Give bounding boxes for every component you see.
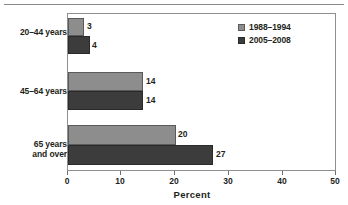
bar-20-44-years-1988-1994 xyxy=(68,18,84,36)
legend-label-2005-2008: 2005–2008 xyxy=(249,35,291,45)
category-label-20-44-years: 20–44 years xyxy=(0,27,67,37)
bar-value-20-44-years-1988-1994: 3 xyxy=(87,22,92,31)
bar-65-years-and-over-2005-2008 xyxy=(68,145,213,165)
category-label-line2: and over xyxy=(0,149,67,159)
x-axis-tick-10 xyxy=(120,171,121,175)
bar-45-64-years-2005-2008 xyxy=(68,91,143,110)
bar-65-years-and-over-1988-1994 xyxy=(68,125,176,145)
bar-value-65-years-and-over-2005-2008: 27 xyxy=(216,150,225,159)
legend-item-2005-2008: 2005–2008 xyxy=(238,34,291,46)
bar-45-64-years-1988-1994 xyxy=(68,72,143,91)
x-axis-tick-label-20: 20 xyxy=(169,176,178,186)
bar-value-45-64-years-1988-1994: 14 xyxy=(146,77,155,86)
legend-swatch-light-gray-icon xyxy=(238,24,245,31)
category-label-45-64-years: 45–64 years xyxy=(0,86,67,96)
bar-value-45-64-years-2005-2008: 14 xyxy=(146,96,155,105)
x-axis-title-container: Percent xyxy=(0,189,348,200)
bar-value-65-years-and-over-1988-1994: 20 xyxy=(178,130,187,139)
bar-20-44-years-2005-2008 xyxy=(68,36,90,54)
chart-legend: 1988–1994 2005–2008 xyxy=(238,21,291,47)
category-label-line1: 65 years xyxy=(0,139,67,149)
x-axis-tick-50 xyxy=(335,171,336,175)
category-label-line1: 45–64 years xyxy=(0,86,67,96)
x-axis-tick-label-30: 30 xyxy=(223,176,232,186)
x-axis-tick-label-10: 10 xyxy=(115,176,124,186)
legend-swatch-dark-gray-icon xyxy=(238,37,245,44)
legend-label-1988-1994: 1988–1994 xyxy=(249,22,291,32)
x-axis-tick-label-50: 50 xyxy=(330,176,339,186)
top-divider-rule xyxy=(4,4,344,5)
x-axis-tick-0 xyxy=(67,171,68,175)
legend-item-1988-1994: 1988–1994 xyxy=(238,21,291,33)
bar-chart-figure: 20–44 years 45–64 years 65 years and ove… xyxy=(0,0,348,205)
x-axis-tick-label-0: 0 xyxy=(65,176,70,186)
x-axis-tick-label-40: 40 xyxy=(277,176,286,186)
x-axis-title: Percent xyxy=(174,189,211,200)
category-label-line1: 20–44 years xyxy=(0,27,67,37)
category-label-65-years-and-over: 65 years and over xyxy=(0,139,67,159)
x-axis-tick-40 xyxy=(282,171,283,175)
x-axis-tick-30 xyxy=(228,171,229,175)
bar-value-20-44-years-2005-2008: 4 xyxy=(92,41,97,50)
x-axis-tick-20 xyxy=(174,171,175,175)
